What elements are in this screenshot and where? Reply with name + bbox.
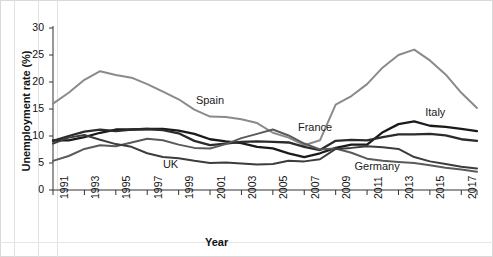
y-tick-label: 10 bbox=[22, 129, 44, 141]
series-label-italy: Italy bbox=[425, 106, 445, 118]
x-tick-label: 2017 bbox=[466, 176, 478, 199]
y-tick-label: 25 bbox=[22, 48, 44, 60]
chart-figure: Unemployment rate (%) Year 051015202530 … bbox=[0, 0, 493, 257]
x-tick-label: 2013 bbox=[403, 176, 415, 199]
y-tick-label: 0 bbox=[22, 183, 44, 195]
x-tick-label: 2015 bbox=[434, 176, 446, 199]
line-chart-canvas bbox=[0, 0, 493, 257]
x-tick-label: 2007 bbox=[309, 176, 321, 199]
x-tick-label: 1991 bbox=[58, 176, 70, 199]
series-lines bbox=[53, 50, 477, 172]
series-label-france: France bbox=[298, 121, 332, 133]
series-label-uk: UK bbox=[163, 158, 178, 170]
axes bbox=[49, 26, 477, 195]
x-tick-label: 1993 bbox=[89, 176, 101, 199]
y-tick-label: 15 bbox=[22, 102, 44, 114]
x-tick-label: 1995 bbox=[120, 176, 132, 199]
x-tick-label: 2011 bbox=[372, 176, 384, 199]
y-tick-label: 20 bbox=[22, 75, 44, 87]
x-axis-title: Year bbox=[205, 236, 228, 248]
y-tick-label: 5 bbox=[22, 156, 44, 168]
x-tick-label: 2003 bbox=[246, 176, 258, 199]
x-tick-label: 1999 bbox=[183, 176, 195, 199]
x-tick-label: 2001 bbox=[215, 176, 227, 199]
y-tick-label: 30 bbox=[22, 21, 44, 33]
x-tick-label: 2005 bbox=[277, 176, 289, 199]
series-label-germany: Germany bbox=[355, 160, 400, 172]
series-label-spain: Spain bbox=[196, 94, 224, 106]
x-tick-label: 1997 bbox=[152, 176, 164, 199]
x-tick-label: 2009 bbox=[340, 176, 352, 199]
